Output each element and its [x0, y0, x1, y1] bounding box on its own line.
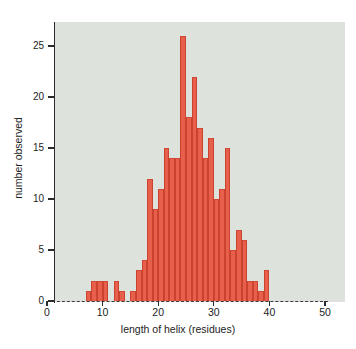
x-tick-label: 50 [310, 306, 340, 318]
y-tick-label: 20 [4, 92, 44, 102]
histogram-bar [103, 281, 109, 301]
x-tick-label: 10 [88, 306, 118, 318]
y-tick-label: 10 [4, 194, 44, 204]
y-axis-label: number observed [12, 78, 24, 238]
y-tick [48, 300, 54, 301]
y-tick [48, 96, 54, 97]
x-tick-label: 30 [199, 306, 229, 318]
y-tick-label: 5 [4, 245, 44, 255]
y-tick [48, 249, 54, 250]
histogram-figure: 0510152025 01020304050 length of helix (… [0, 0, 356, 349]
y-tick [48, 45, 54, 46]
x-tick-label: 40 [254, 306, 284, 318]
y-tick [48, 198, 54, 199]
y-axis-line [54, 22, 55, 303]
x-tick-label: 0 [32, 306, 62, 318]
x-axis-baseline [47, 301, 328, 302]
y-tick [48, 147, 54, 148]
y-tick-label: 15 [4, 143, 44, 153]
x-axis-label: length of helix (residues) [0, 323, 356, 335]
x-tick-label: 20 [143, 306, 173, 318]
histogram-bar [119, 291, 125, 301]
histogram-bar [264, 270, 270, 301]
y-tick-label: 0 [4, 296, 44, 306]
y-tick-label: 25 [4, 41, 44, 51]
